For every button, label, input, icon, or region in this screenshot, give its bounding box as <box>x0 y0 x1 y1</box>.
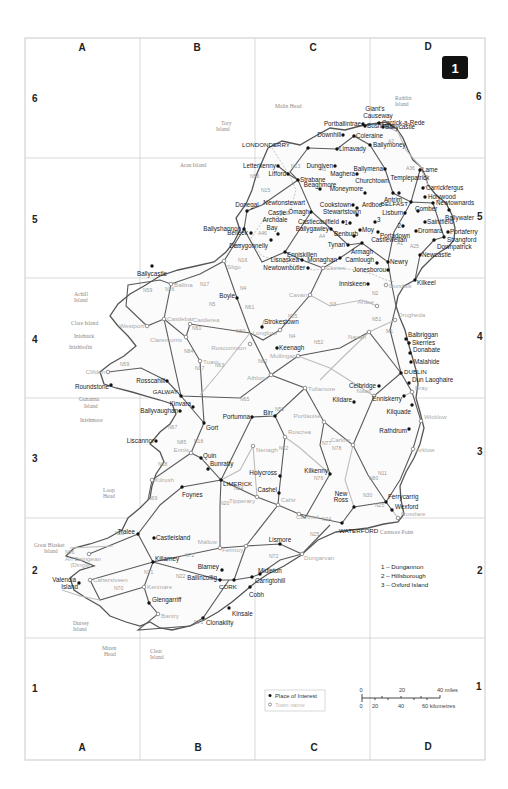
poi-label: Kilkenny <box>304 467 329 475</box>
town-label: Tipperary <box>229 497 256 504</box>
poi-dot-icon <box>218 578 221 581</box>
poi-dot-icon <box>250 415 253 418</box>
poi-dot-icon <box>383 167 386 170</box>
poi-dot-icon <box>249 231 252 234</box>
poi-liscannor: Liscannor <box>127 437 158 444</box>
island-label-gunanna: Gunanna <box>79 396 100 402</box>
town-circle-icon <box>169 282 173 286</box>
legend-place-of-interest: Place of Interest <box>275 693 317 699</box>
poi-label: Portumna <box>223 413 251 420</box>
road-label-n71: N71 <box>144 569 153 575</box>
poi-keenagh: Keenagh <box>275 344 304 352</box>
poi-label: Boyle <box>219 292 235 300</box>
island-label-inishmore: Inishmore <box>80 417 103 423</box>
poi-label: Ross <box>334 496 348 503</box>
town-label: Rosslare <box>401 510 426 517</box>
poi-rosscahill: Rosscahill <box>136 377 168 384</box>
poi-label: GALWAY <box>153 388 178 395</box>
col-label-d-top: D <box>424 41 431 52</box>
poi-dot-icon <box>363 191 366 194</box>
poi-dot-icon <box>276 164 279 167</box>
poi-dot-icon <box>306 266 309 269</box>
poi-dot-icon <box>384 500 387 503</box>
town-label: Arklow <box>416 446 435 453</box>
poi-ballymena: Ballymena <box>354 165 387 173</box>
row-label-5-left: 5 <box>32 214 38 225</box>
poi-limerick: LIMERICK <box>219 478 253 487</box>
road-label-n2: N2 <box>372 290 379 296</box>
road-label-n52: N52 <box>314 339 323 345</box>
poi-malahide: Malahide <box>409 358 440 365</box>
row-label-2-right: 2 <box>477 565 483 576</box>
poi-carrickfergus: Carrickfergus <box>421 184 463 192</box>
poi-label: Stewartstown <box>323 208 361 215</box>
town-kenmare: Kenmare <box>142 583 172 590</box>
town-circle-icon <box>396 516 400 520</box>
town-label: Tullamore <box>308 385 336 392</box>
town-label: Mallow <box>198 538 218 545</box>
road-label-n67: N67 <box>168 424 177 430</box>
scale-miles-20: 20 <box>399 687 405 693</box>
scale-km-60: 60 kilometres <box>422 703 455 709</box>
town-circle-icon <box>142 585 146 589</box>
town-clonmel: Clonmel <box>296 512 319 520</box>
town-dingle: (Dingle) <box>70 561 92 568</box>
poi-island: Island <box>61 583 78 590</box>
poi-label: Kilkeel <box>417 279 436 286</box>
poi-newry: Newry <box>386 258 408 266</box>
poi-dot-icon <box>300 258 303 261</box>
poi-label: Carrickfergus <box>426 184 463 192</box>
poi-monaghan: Monaghan <box>307 256 341 264</box>
poi-dot-icon <box>351 203 354 206</box>
badge-number: 1 <box>451 61 458 76</box>
poi-dot-icon <box>352 505 355 508</box>
poi-label: Bay <box>267 224 279 232</box>
poi-dungiven: Dungiven <box>306 162 336 170</box>
poi-label: Liscannor <box>127 437 154 444</box>
town-label: Roscrea <box>288 428 312 435</box>
poi-antrim2 <box>397 191 400 194</box>
poi-dot-icon <box>278 474 281 477</box>
poi-lisnaskea: Lisnaskea <box>271 256 304 263</box>
poi-dot-icon <box>375 261 378 264</box>
town-castlebar: Castlebar <box>162 315 193 322</box>
poi-label: Tralee <box>117 528 135 535</box>
row-label-6-left: 6 <box>32 93 38 104</box>
poi-label: Maghera <box>330 170 355 178</box>
poi-label: Keenagh <box>279 344 305 352</box>
poi-castlewellan: Castlewellan <box>371 236 407 243</box>
poi-celbridge: Celbridge <box>349 382 381 390</box>
island-label-aran-island: Aran Island <box>180 162 206 168</box>
scale-km-40: 40 <box>398 703 404 709</box>
poi-dot-icon <box>348 221 351 224</box>
poi-label: Rathdrum <box>379 427 407 434</box>
town-circle-icon <box>162 317 166 321</box>
poi-dot-icon <box>306 146 309 149</box>
poi-dot-icon <box>391 191 394 194</box>
poi-label: Castle <box>268 209 286 216</box>
town-label: Claremorris <box>150 336 182 343</box>
poi-label: 2 <box>397 222 401 229</box>
poi-dot-icon <box>201 616 204 619</box>
poi-cookstown: Cookstown <box>320 201 355 208</box>
key-item-3: 3 – Oxford Island <box>381 581 429 588</box>
road-label-n26: N26 <box>165 286 174 292</box>
poi-dot-icon <box>410 403 413 406</box>
poi-label: Ballycastle <box>137 270 168 278</box>
town-label: Ennis <box>174 446 189 453</box>
town-label: Cavan <box>289 291 307 298</box>
poi-label: Glengarriff <box>152 596 182 604</box>
poi-castle: Castle <box>268 209 286 216</box>
row-label-5-right: 5 <box>477 211 483 222</box>
town-circle-icon <box>269 373 273 377</box>
town-label: Drogheda <box>398 311 426 318</box>
poi-label: Ferrycarrig <box>388 493 419 501</box>
legend-poi-dot-icon <box>269 694 272 697</box>
road-label-n62: N62 <box>279 445 288 451</box>
road-label-n76: N76 <box>314 475 323 481</box>
road-label-a25: A25 <box>410 243 419 249</box>
poi-label: Celbridge <box>349 382 376 390</box>
poi-label: Bunratty <box>210 460 234 468</box>
poi-dot-icon <box>277 491 280 494</box>
poi-dot-icon <box>407 381 410 384</box>
